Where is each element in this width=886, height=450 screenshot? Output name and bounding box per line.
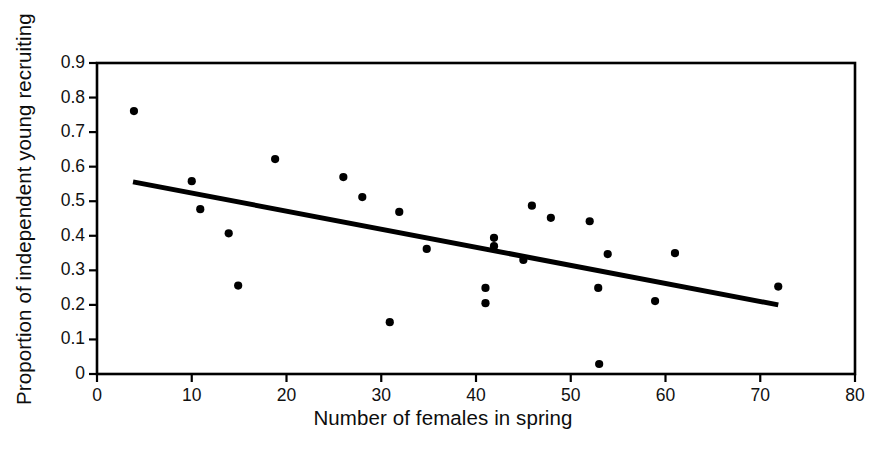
data-point bbox=[651, 297, 659, 305]
data-point bbox=[481, 284, 489, 292]
scatter-plot-figure: Proportion of independent young recruiti… bbox=[0, 0, 886, 450]
data-point bbox=[490, 242, 498, 250]
x-tick-label: 80 bbox=[825, 385, 885, 406]
data-point bbox=[490, 234, 498, 242]
x-tick-label: 20 bbox=[257, 385, 317, 406]
data-point bbox=[339, 173, 347, 181]
data-point bbox=[519, 256, 527, 264]
data-point bbox=[196, 205, 204, 213]
x-axis-title: Number of females in spring bbox=[0, 406, 886, 430]
x-tick-label: 40 bbox=[446, 385, 506, 406]
plot-frame bbox=[97, 63, 855, 374]
plot-canvas bbox=[0, 0, 886, 450]
data-point bbox=[188, 177, 196, 185]
data-point bbox=[358, 193, 366, 201]
data-point bbox=[595, 360, 603, 368]
y-tick-label: 0.5 bbox=[25, 190, 85, 211]
data-point bbox=[481, 299, 489, 307]
x-tick-label: 30 bbox=[351, 385, 411, 406]
data-point bbox=[586, 217, 594, 225]
data-point bbox=[234, 281, 242, 289]
y-tick-label: 0.3 bbox=[25, 259, 85, 280]
x-tick-label: 70 bbox=[730, 385, 790, 406]
data-point bbox=[774, 282, 782, 290]
x-tick-label: 60 bbox=[636, 385, 696, 406]
data-point bbox=[423, 245, 431, 253]
data-point bbox=[547, 214, 555, 222]
data-point bbox=[528, 202, 536, 210]
x-tick-label: 10 bbox=[162, 385, 222, 406]
y-tick-label: 0 bbox=[25, 363, 85, 384]
data-point bbox=[594, 284, 602, 292]
data-point bbox=[271, 155, 279, 163]
y-tick-label: 0.7 bbox=[25, 121, 85, 142]
y-tick-label: 0.2 bbox=[25, 294, 85, 315]
data-point bbox=[225, 229, 233, 237]
data-point bbox=[604, 250, 612, 258]
data-point bbox=[386, 318, 394, 326]
y-tick-label: 0.6 bbox=[25, 156, 85, 177]
x-tick-label: 0 bbox=[67, 385, 127, 406]
data-point bbox=[671, 249, 679, 257]
y-tick-label: 0.8 bbox=[25, 87, 85, 108]
y-tick-label: 0.9 bbox=[25, 52, 85, 73]
x-tick-label: 50 bbox=[541, 385, 601, 406]
trendline bbox=[133, 182, 778, 305]
data-point bbox=[395, 208, 403, 216]
y-tick-label: 0.4 bbox=[25, 225, 85, 246]
data-point bbox=[130, 107, 138, 115]
y-tick-label: 0.1 bbox=[25, 328, 85, 349]
